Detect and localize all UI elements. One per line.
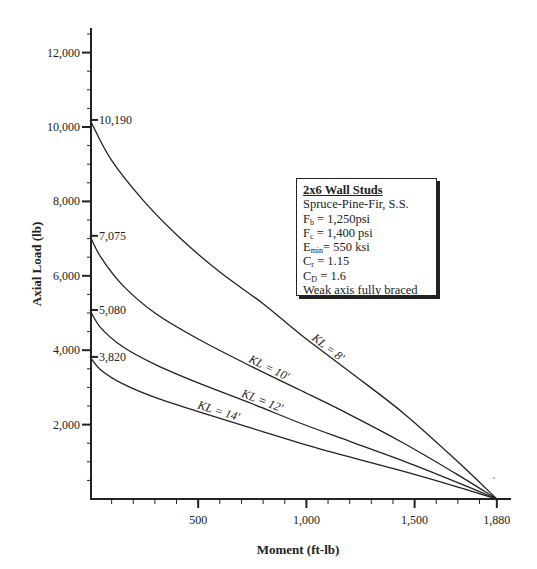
curve-label: KL = 12' (239, 386, 286, 415)
intercept-annotations: 10,1907,0755,0803,820 (91, 113, 132, 364)
intercept-label: 10,190 (99, 113, 132, 127)
y-tick-label: 6,000 (53, 269, 80, 283)
legend-line: CD = 1.6 (303, 269, 436, 283)
legend-box: 2x6 Wall Studs Spruce-Pine-Fir, S.S.Fb =… (296, 178, 437, 296)
x-axis-title: Moment (ft-lb) (257, 542, 340, 557)
legend-line: Spruce-Pine-Fir, S.S. (303, 197, 436, 211)
curve-label: KL = 14' (195, 397, 242, 423)
legend-line: Weak axis fully braced (303, 283, 436, 297)
curve-14ft (90, 357, 497, 499)
legend-line: Cr = 1.15 (303, 254, 436, 268)
y-tick-label: 8,000 (53, 194, 80, 208)
legend-title: 2x6 Wall Studs (303, 183, 436, 197)
x-tick-label: 1,880 (483, 513, 510, 527)
stray-dot (493, 477, 495, 479)
y-tick-label: 4,000 (53, 343, 80, 357)
legend-line: Fc = 1,400 psi (303, 226, 436, 240)
curve-12ft (90, 310, 497, 499)
legend-lines: Spruce-Pine-Fir, S.S.Fb = 1,250psiFc = 1… (303, 197, 436, 297)
y-tick-label: 2,000 (53, 418, 80, 432)
x-axis-ticks: 5001,0001,5001,880 (112, 499, 511, 527)
x-tick-label: 1,000 (293, 513, 320, 527)
x-tick-label: 1,500 (401, 513, 428, 527)
legend-line: Fb = 1,250psi (303, 212, 436, 226)
intercept-label: 5,080 (99, 303, 126, 317)
y-axis-title: Axial Load (lb) (29, 222, 44, 307)
curves: KL = 8'KL = 10'KL = 12'KL = 14' (90, 120, 497, 499)
x-tick-label: 500 (189, 513, 207, 527)
intercept-label: 7,075 (99, 229, 126, 243)
curve-label: KL = 8' (309, 330, 348, 365)
legend-line: Emin= 550 ksi (303, 240, 436, 254)
y-axis-ticks: 2,0004,0006,0008,00010,00012,000 (47, 34, 91, 480)
chart: 2,0004,0006,0008,00010,00012,000 5001,00… (0, 0, 537, 569)
y-tick-label: 12,000 (47, 46, 80, 60)
intercept-label: 3,820 (99, 350, 126, 364)
y-tick-label: 10,000 (47, 120, 80, 134)
